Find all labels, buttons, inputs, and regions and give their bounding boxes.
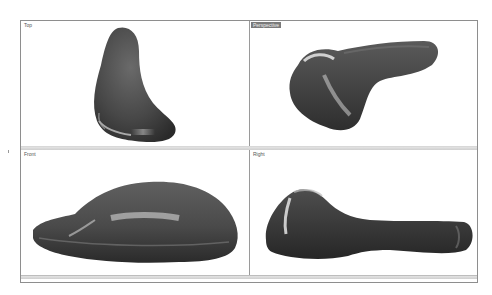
viewport-label-perspective[interactable]: Perspective (251, 22, 281, 28)
viewport-perspective[interactable]: Perspective (249, 21, 477, 146)
model-right-view (260, 180, 476, 260)
model-front-view (29, 176, 241, 264)
model-top-view (81, 25, 181, 145)
viewport-label-top[interactable]: Top (22, 22, 34, 28)
status-bar-bottom (21, 275, 477, 279)
viewport-frame: Top Perspective (20, 20, 478, 283)
viewport-top[interactable]: Top (21, 21, 248, 146)
model-perspective-view (284, 35, 444, 135)
viewport-label-right[interactable]: Right (251, 151, 267, 157)
side-tick-mark (8, 150, 9, 153)
viewport-front[interactable]: Front (21, 150, 248, 275)
viewport-right[interactable]: Right (249, 150, 477, 275)
viewport-label-front[interactable]: Front (22, 151, 38, 157)
